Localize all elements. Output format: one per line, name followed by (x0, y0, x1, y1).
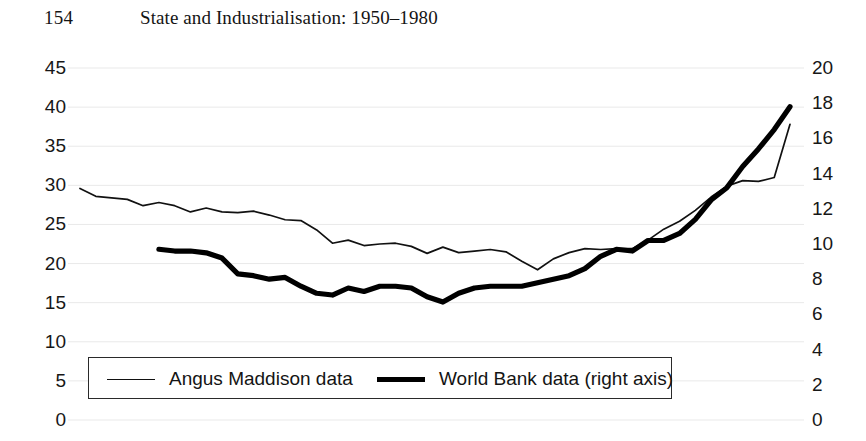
left-axis-tick-label: 5 (26, 371, 66, 390)
legend-line-swatch-thin (107, 379, 155, 380)
left-axis-tick-label: 30 (26, 175, 66, 194)
right-axis-tick-label: 18 (812, 93, 858, 112)
right-axis-tick-label: 6 (812, 304, 858, 323)
right-axis-tick-label: 4 (812, 340, 858, 359)
right-axis-tick-label: 8 (812, 269, 858, 288)
left-axis-tick-label: 45 (26, 58, 66, 77)
running-head: 154 State and Industrialisation: 1950–19… (0, 0, 866, 46)
right-axis-tick-label: 10 (812, 234, 858, 253)
left-axis-tick-label: 40 (26, 97, 66, 116)
left-axis-tick-label: 15 (26, 293, 66, 312)
right-axis-tick-label: 0 (812, 410, 858, 429)
legend-label-world-bank: World Bank data (right axis) (439, 368, 673, 390)
series-line (159, 107, 790, 302)
series-lines (80, 107, 790, 302)
page-number: 154 (44, 7, 73, 29)
right-axis-tick-label: 14 (812, 164, 858, 183)
chart-figure: 051015202530354045 02468101214161820 Ang… (0, 46, 866, 441)
left-axis-tick-label: 25 (26, 214, 66, 233)
chapter-title: State and Industrialisation: 1950–1980 (140, 7, 438, 29)
legend-entry-maddison: Angus Maddison data (107, 358, 353, 400)
left-axis-tick-label: 20 (26, 254, 66, 273)
right-axis-tick-label: 16 (812, 128, 858, 147)
left-axis-tick-label: 0 (26, 410, 66, 429)
chart-legend: Angus Maddison data World Bank data (rig… (88, 357, 672, 399)
legend-label-maddison: Angus Maddison data (169, 368, 353, 390)
legend-line-swatch-thick (377, 377, 425, 382)
left-axis-tick-label: 10 (26, 332, 66, 351)
right-axis-tick-label: 12 (812, 199, 858, 218)
right-axis-tick-label: 2 (812, 375, 858, 394)
right-axis-tick-label: 20 (812, 58, 858, 77)
legend-entry-world-bank: World Bank data (right axis) (377, 358, 673, 400)
left-axis-tick-label: 35 (26, 136, 66, 155)
